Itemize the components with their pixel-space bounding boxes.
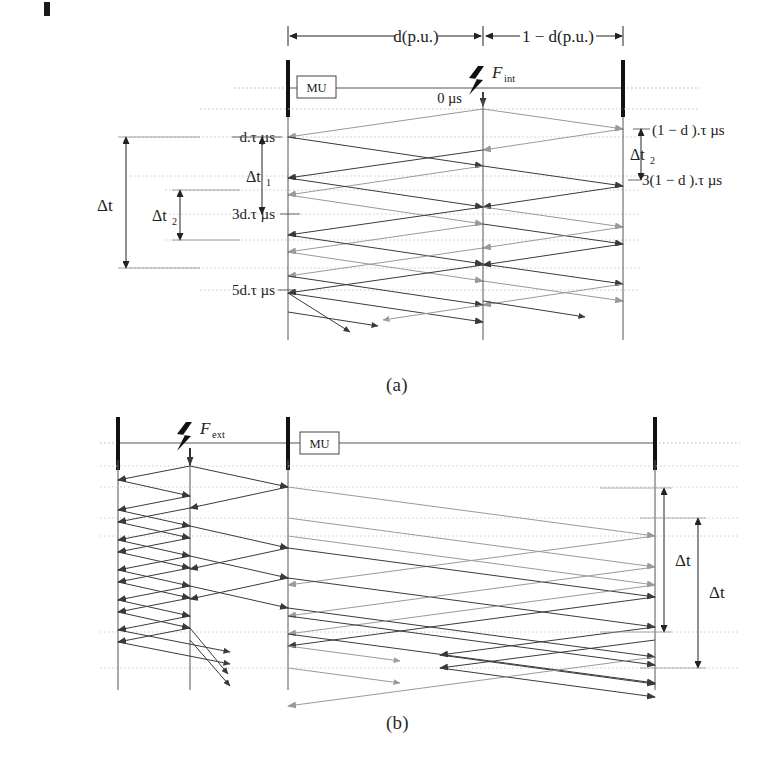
left-label-3d-tau: 3d.τ µs (232, 206, 275, 222)
figure-root: d(p.u.) 1 − d(p.u.) MU F int (0, 0, 782, 758)
time-origin-label-a: 0 µs (437, 90, 462, 106)
fault-label-b: F (199, 419, 211, 438)
right-label-1md-tau: (1 − d ).τ µs (652, 122, 725, 139)
fault-sublabel-b: ext (212, 429, 225, 440)
lattice-right-b (288, 487, 655, 706)
bracket-label-delta-t: Δt (97, 196, 113, 215)
reference-levels-a (130, 109, 700, 290)
mu-box-label-b: MU (309, 437, 329, 451)
bracket-sub-delta-t2-right: 2 (650, 155, 655, 166)
fault-symbol-a (469, 66, 484, 106)
bracket-delta-t1-a: Δt 1 (246, 137, 271, 214)
bracket-label-delta-t2-left: Δt (152, 207, 167, 224)
panel-a: d(p.u.) 1 − d(p.u.) MU F int (97, 26, 725, 340)
dim-label-1-minus-d: 1 − d(p.u.) (522, 27, 594, 46)
bracket-label-delta-t-lower-b: Δt (709, 583, 725, 602)
bracket-delta-t2-left-a: Δt 2 (152, 190, 240, 240)
bracket-delta-t-a: Δt (97, 137, 200, 268)
panel-b: MU F ext (100, 417, 740, 706)
bracket-sub-delta-t2-left: 2 (172, 216, 177, 227)
mu-box-label-a: MU (306, 81, 326, 95)
right-label-3-1md-tau: 3(1 − d ).τ µs (642, 172, 722, 189)
mu-box-a: MU (297, 76, 336, 98)
left-labels-a: d.τ µs 3d.τ µs 5d.τ µs (232, 129, 300, 298)
bracket-label-delta-t2-right: Δt (630, 146, 645, 163)
lattice-waves-a (288, 109, 623, 332)
bracket-delta-t-lower-b: Δt (640, 518, 725, 668)
bracket-delta-t-upper-b: Δt (600, 488, 691, 632)
bracket-label-delta-t-upper-b: Δt (675, 551, 691, 570)
lattice-left-b (118, 466, 288, 686)
dim-label-d: d(p.u.) (393, 27, 438, 46)
dimension-row-a: d(p.u.) 1 − d(p.u.) (288, 26, 623, 46)
fault-sublabel-a: int (504, 73, 515, 84)
bracket-label-delta-t1: Δt (246, 168, 261, 185)
fault-label-a: F (491, 63, 503, 82)
bracket-sub-delta-t1: 1 (266, 177, 271, 188)
left-label-5d-tau: 5d.τ µs (232, 282, 275, 298)
caption-a: (a) (386, 374, 408, 396)
mu-box-b: MU (300, 432, 339, 454)
caption-b: (b) (386, 712, 409, 734)
